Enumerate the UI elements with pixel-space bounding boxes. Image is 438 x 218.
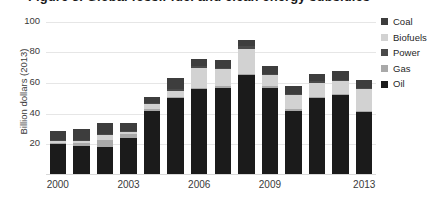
legend-swatch-icon — [381, 81, 388, 88]
legend-label: Gas — [393, 64, 410, 74]
bar-2009[interactable] — [262, 66, 279, 175]
bar-segment-oil — [285, 111, 302, 175]
bar-segment-oil — [238, 75, 255, 175]
legend-swatch-icon — [381, 34, 388, 41]
bar-series-container — [46, 14, 376, 175]
legend-swatch-icon — [381, 18, 388, 25]
y-tick-label: 80 — [6, 46, 40, 56]
x-tick-label: 2006 — [188, 179, 210, 190]
plot-area — [46, 14, 376, 175]
bar-segment-biofuels — [238, 49, 255, 74]
bar-2007[interactable] — [215, 60, 232, 175]
bar-segment-coal — [167, 78, 184, 89]
y-tick-label: 60 — [6, 77, 40, 87]
bar-segment-biofuels — [285, 95, 302, 109]
legend-label: Coal — [393, 17, 413, 27]
legend-label: Power — [393, 48, 420, 58]
y-tick-label: 100 — [6, 16, 40, 26]
bar-segment-oil — [50, 144, 67, 175]
bar-segment-biofuels — [356, 89, 373, 110]
bar-segment-biofuels — [309, 83, 326, 97]
y-axis-ticks: 20406080100 — [0, 14, 46, 175]
chart-legend: CoalBiofuelsPowerGasOil — [381, 14, 437, 92]
bar-segment-biofuels — [332, 81, 349, 93]
x-tick-label: 2000 — [47, 179, 69, 190]
x-axis-line — [46, 174, 376, 175]
bar-2008[interactable] — [238, 40, 255, 175]
bar-2011[interactable] — [309, 74, 326, 175]
bar-segment-coal — [97, 123, 114, 134]
bar-segment-oil — [215, 88, 232, 175]
bar-segment-coal — [73, 129, 90, 140]
bar-2010[interactable] — [285, 86, 302, 175]
bar-segment-biofuels — [215, 69, 232, 86]
bar-segment-oil — [262, 88, 279, 175]
legend-item-oil[interactable]: Oil — [381, 76, 437, 92]
bar-2005[interactable] — [167, 78, 184, 175]
bar-segment-coal — [262, 66, 279, 74]
bar-segment-oil — [309, 98, 326, 175]
bar-segment-coal — [215, 60, 232, 68]
legend-swatch-icon — [381, 65, 388, 72]
bar-segment-oil — [144, 111, 161, 175]
x-tick-label: 2003 — [117, 179, 139, 190]
bar-segment-coal — [356, 80, 373, 88]
bar-segment-coal — [332, 71, 349, 80]
bar-2012[interactable] — [332, 71, 349, 175]
bar-segment-oil — [332, 95, 349, 175]
bar-2004[interactable] — [144, 97, 161, 175]
bar-segment-oil — [356, 112, 373, 175]
bar-segment-oil — [73, 146, 90, 175]
bar-segment-oil — [191, 89, 208, 175]
legend-label: Oil — [393, 79, 405, 89]
bar-segment-biofuels — [191, 68, 208, 88]
bar-segment-oil — [167, 98, 184, 175]
bar-2002[interactable] — [97, 123, 114, 175]
bar-2013[interactable] — [356, 80, 373, 175]
bar-segment-biofuels — [262, 75, 279, 86]
legend-item-power[interactable]: Power — [381, 45, 437, 61]
legend-item-gas[interactable]: Gas — [381, 61, 437, 77]
bar-segment-coal — [120, 123, 137, 131]
legend-item-biofuels[interactable]: Biofuels — [381, 30, 437, 46]
bar-segment-oil — [120, 138, 137, 175]
bar-segment-coal — [285, 86, 302, 94]
bar-2001[interactable] — [73, 129, 90, 175]
bar-segment-gas — [97, 140, 114, 148]
bar-2000[interactable] — [50, 131, 67, 175]
y-tick-label: 20 — [6, 138, 40, 148]
bar-segment-coal — [309, 74, 326, 82]
y-tick-label: 40 — [6, 108, 40, 118]
bar-segment-coal — [50, 131, 67, 140]
legend-label: Biofuels — [393, 33, 427, 43]
x-tick-label: 2009 — [259, 179, 281, 190]
legend-item-coal[interactable]: Coal — [381, 14, 437, 30]
bar-segment-oil — [97, 147, 114, 175]
bar-2003[interactable] — [120, 123, 137, 175]
bar-2006[interactable] — [191, 59, 208, 176]
x-axis-ticks: 20002003200620092013 — [46, 179, 376, 197]
x-tick-label: 2013 — [353, 179, 375, 190]
legend-swatch-icon — [381, 49, 388, 56]
stacked-bar-chart: Billion dollars (2013) 20406080100 20002… — [0, 0, 438, 218]
bar-segment-coal — [191, 59, 208, 67]
